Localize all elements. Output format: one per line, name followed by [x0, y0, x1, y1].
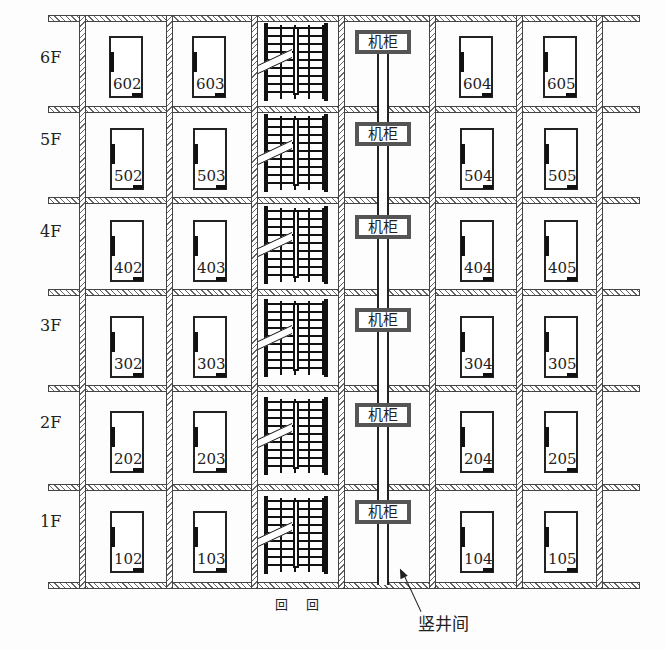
network-cabinet: 机柜 — [355, 500, 411, 524]
room-door: 502 — [110, 128, 144, 190]
floor-label: 6F — [40, 48, 61, 67]
network-cabinet: 机柜 — [355, 308, 411, 332]
room-door: 505 — [544, 128, 578, 190]
door-handle-icon — [111, 527, 115, 547]
door-handle-icon — [461, 527, 465, 547]
room-door: 605 — [543, 36, 577, 98]
door-sill — [567, 468, 577, 472]
room-number: 205 — [548, 450, 577, 468]
wall-column — [338, 15, 345, 589]
room-door: 102 — [110, 511, 144, 573]
floor-label: 4F — [40, 222, 61, 241]
floor-label: 1F — [40, 512, 61, 531]
room-door: 503 — [193, 128, 227, 190]
door-sill — [567, 277, 577, 281]
network-cabinet: 机柜 — [355, 403, 411, 427]
room-number: 203 — [197, 450, 226, 468]
floor-label: 2F — [40, 413, 61, 432]
door-handle-icon — [194, 427, 198, 447]
room-door: 403 — [193, 220, 227, 282]
entrance-mark-icon: 回 — [306, 594, 319, 613]
room-door: 103 — [193, 511, 227, 573]
network-cabinet: 机柜 — [355, 215, 411, 239]
floor-label: 5F — [40, 130, 61, 149]
door-handle-icon — [460, 52, 464, 72]
room-number: 204 — [464, 450, 493, 468]
door-handle-icon — [194, 527, 198, 547]
room-number: 405 — [548, 259, 577, 277]
door-sill — [483, 277, 493, 281]
staircase-icon — [258, 112, 332, 194]
staircase-icon — [258, 395, 332, 477]
door-handle-icon — [545, 527, 549, 547]
room-door: 504 — [460, 128, 494, 190]
door-handle-icon — [461, 427, 465, 447]
door-sill — [216, 468, 226, 472]
room-door: 105 — [544, 511, 578, 573]
door-handle-icon — [545, 236, 549, 256]
wall-column — [516, 15, 523, 589]
room-number: 403 — [197, 259, 226, 277]
room-door: 205 — [544, 411, 578, 473]
room-number: 605 — [547, 75, 576, 93]
room-number: 603 — [196, 75, 225, 93]
room-number: 602 — [113, 75, 142, 93]
door-handle-icon — [111, 332, 115, 352]
door-sill — [215, 93, 225, 97]
door-sill — [133, 277, 143, 281]
floor-label: 3F — [40, 316, 61, 335]
staircase-icon — [258, 204, 332, 286]
door-sill — [483, 568, 493, 572]
room-door: 405 — [544, 220, 578, 282]
room-door: 404 — [460, 220, 494, 282]
door-sill — [133, 185, 143, 189]
room-number: 505 — [548, 167, 577, 185]
door-handle-icon — [545, 427, 549, 447]
door-handle-icon — [461, 236, 465, 256]
door-sill — [567, 185, 577, 189]
room-number: 302 — [114, 355, 143, 373]
door-sill — [567, 373, 577, 377]
door-handle-icon — [194, 144, 198, 164]
door-handle-icon — [545, 144, 549, 164]
door-sill — [133, 568, 143, 572]
door-sill — [483, 185, 493, 189]
shaft-label: 竖井间 — [418, 610, 469, 635]
staircase-icon — [258, 21, 332, 103]
door-handle-icon — [110, 52, 114, 72]
room-number: 502 — [114, 167, 143, 185]
room-door: 204 — [460, 411, 494, 473]
room-number: 104 — [464, 550, 493, 568]
room-number: 305 — [548, 355, 577, 373]
room-number: 504 — [464, 167, 493, 185]
room-door: 302 — [110, 316, 144, 378]
room-door: 203 — [193, 411, 227, 473]
door-sill — [133, 373, 143, 377]
room-number: 304 — [464, 355, 493, 373]
room-door: 202 — [110, 411, 144, 473]
door-handle-icon — [111, 236, 115, 256]
door-handle-icon — [461, 144, 465, 164]
wall-column — [79, 15, 86, 589]
wall-column — [251, 15, 258, 589]
door-handle-icon — [194, 332, 198, 352]
door-sill — [132, 93, 142, 97]
door-sill — [567, 568, 577, 572]
door-handle-icon — [111, 144, 115, 164]
room-number: 103 — [197, 550, 226, 568]
staircase-icon — [258, 297, 332, 379]
room-door: 104 — [460, 511, 494, 573]
wall-column — [429, 15, 436, 589]
room-door: 603 — [192, 36, 226, 98]
room-door: 304 — [460, 316, 494, 378]
door-sill — [216, 568, 226, 572]
room-number: 105 — [548, 550, 577, 568]
wall-column — [596, 15, 603, 589]
network-cabinet: 机柜 — [355, 30, 411, 54]
network-cabinet: 机柜 — [355, 122, 411, 146]
room-door: 602 — [109, 36, 143, 98]
door-sill — [482, 93, 492, 97]
floor-plan-diagram: 6F 602 603 机柜 604 605 5F 502 503 机柜 504 … — [0, 0, 665, 650]
leader-line — [402, 572, 422, 612]
room-number: 102 — [114, 550, 143, 568]
